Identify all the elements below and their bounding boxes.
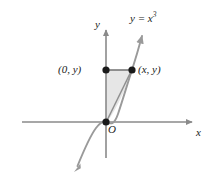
curve-equation-label: y = x3 bbox=[130, 11, 156, 24]
curve-equation-base: y = x bbox=[130, 12, 153, 24]
figure-canvas bbox=[0, 0, 209, 178]
point-dot-0y bbox=[102, 66, 109, 73]
origin-label: O bbox=[108, 124, 116, 135]
x-axis-label: x bbox=[196, 127, 201, 138]
point-label-xy: (x, y) bbox=[138, 64, 161, 75]
point-label-0y: (0, y) bbox=[58, 64, 81, 75]
curve-equation-exponent: 3 bbox=[153, 10, 157, 19]
y-axis-label: y bbox=[95, 19, 100, 30]
math-figure: y = x3 (0, y) (x, y) O x y bbox=[0, 0, 209, 178]
point-dot-xy bbox=[128, 66, 135, 73]
